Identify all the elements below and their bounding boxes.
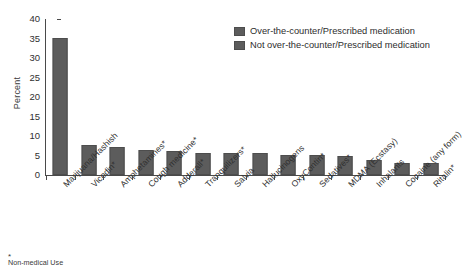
- bar-slot: [103, 19, 132, 175]
- y-tick-label: 35: [18, 34, 40, 44]
- x-tick-mark: [388, 176, 389, 180]
- x-tick-mark: [303, 176, 304, 180]
- y-axis-ticks: 4035302520151050: [16, 0, 40, 279]
- legend-swatch-not-otc: [234, 41, 245, 50]
- x-tick-mark: [445, 176, 446, 180]
- y-tick-label: 15: [18, 112, 40, 122]
- legend-item-not-otc: Not over-the-counter/Prescribed medicati…: [234, 40, 430, 51]
- y-tick-mark: [57, 175, 61, 176]
- x-tick-mark: [331, 176, 332, 180]
- x-tick-mark: [360, 176, 361, 180]
- bar[interactable]: [53, 38, 68, 175]
- x-tick-mark: [417, 176, 418, 180]
- y-tick-label: 0: [18, 170, 40, 180]
- footnote-text: Non-medical Use: [8, 258, 63, 267]
- legend-item-otc: Over-the-counter/Prescribed medication: [234, 26, 430, 37]
- y-tick-label: 20: [18, 92, 40, 102]
- x-tick-mark: [160, 176, 161, 180]
- y-tick-label: 30: [18, 53, 40, 63]
- x-tick-mark: [132, 176, 133, 180]
- legend-swatch-otc: [234, 27, 245, 36]
- legend-label-otc: Over-the-counter/Prescribed medication: [250, 27, 415, 36]
- x-tick-mark: [103, 176, 104, 180]
- y-tick-label: 40: [18, 14, 40, 24]
- x-tick-mark: [75, 176, 76, 180]
- chart-legend: Over-the-counter/Prescribed medication N…: [234, 26, 430, 54]
- x-tick-mark: [274, 176, 275, 180]
- x-tick-mark: [217, 176, 218, 180]
- y-tick-label: 25: [18, 73, 40, 83]
- legend-label-not-otc: Not over-the-counter/Prescribed medicati…: [250, 41, 430, 50]
- x-tick-mark: [246, 176, 247, 180]
- bar-slot: [189, 19, 218, 175]
- x-tick-mark: [46, 176, 47, 180]
- y-tick-label: 5: [18, 151, 40, 161]
- y-tick-label: 10: [18, 131, 40, 141]
- x-tick-mark: [189, 176, 190, 180]
- bar-slot: [46, 19, 75, 175]
